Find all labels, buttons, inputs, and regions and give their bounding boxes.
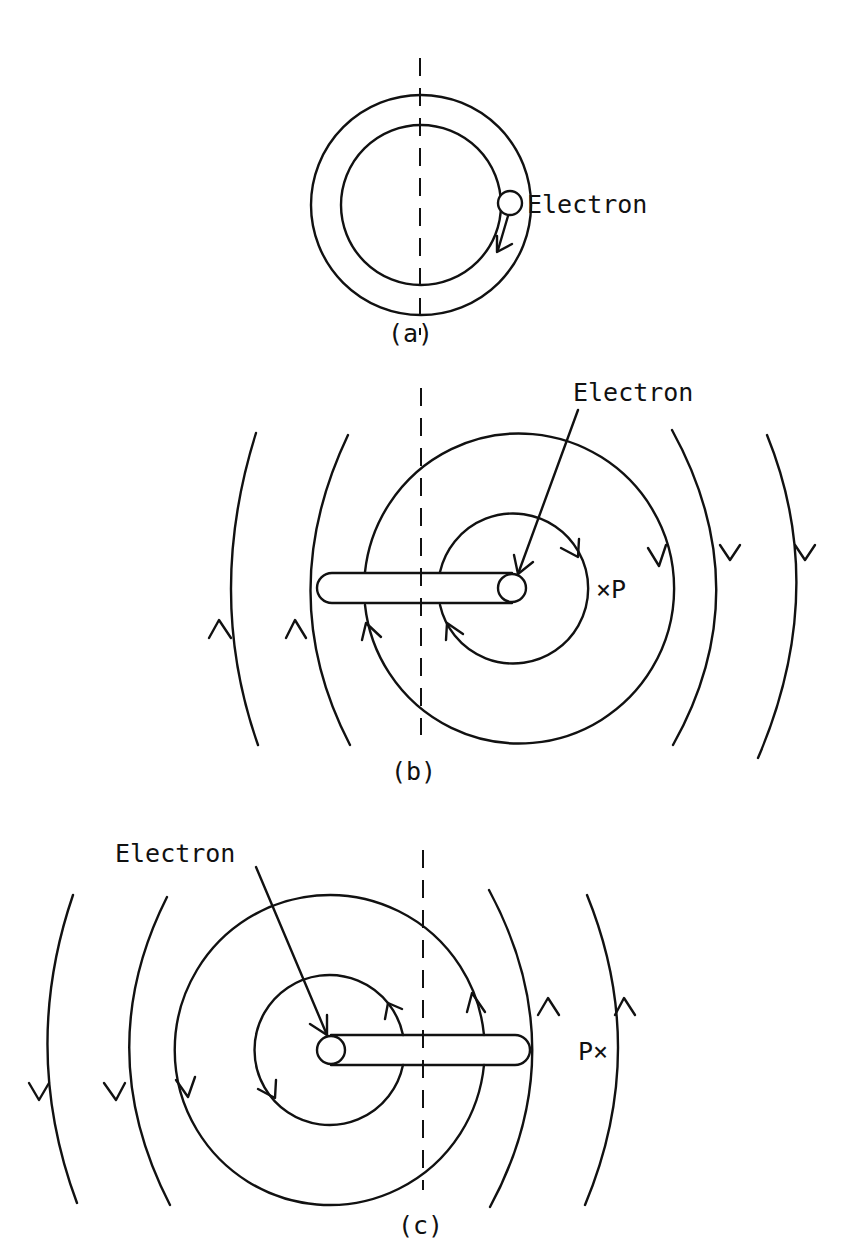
electron-circle-a xyxy=(498,191,522,215)
panel-c: Electron P× (c) xyxy=(29,839,635,1240)
rod-c xyxy=(331,1035,530,1065)
panel-b: Electron ×P (b) xyxy=(209,378,815,786)
arrow-down-icon xyxy=(795,545,815,560)
electron-circle-b xyxy=(498,574,526,602)
arrow-up-icon xyxy=(209,620,231,638)
arrow-down-icon xyxy=(648,545,666,566)
arrow-down-icon xyxy=(720,545,740,560)
panel-caption-c: (c) xyxy=(398,1211,443,1240)
arrow-pointer-icon xyxy=(310,1015,327,1035)
panel-caption-a: (a) xyxy=(388,319,433,348)
electron-label-b: Electron xyxy=(573,378,693,407)
arrow-up-icon xyxy=(615,998,635,1015)
arrow-down-icon xyxy=(104,1083,125,1100)
point-p-label-c: P× xyxy=(578,1037,608,1066)
field-line-b-right-1 xyxy=(672,430,716,745)
rod-b xyxy=(317,573,512,603)
field-line-c-left-1 xyxy=(47,895,77,1203)
field-line-b-right-2 xyxy=(758,435,796,758)
field-line-c-left-2 xyxy=(129,897,170,1205)
field-line-b-left-1 xyxy=(231,433,258,745)
electron-circle-c xyxy=(317,1036,345,1064)
panel-caption-b: (b) xyxy=(391,757,436,786)
electron-field-diagram: Electron (a) Electron ×P (b) xyxy=(0,0,848,1244)
arrow-up-icon xyxy=(538,998,559,1015)
electron-label-a: Electron xyxy=(527,190,647,219)
arrow-down-icon xyxy=(29,1083,49,1100)
electron-label-c: Electron xyxy=(115,839,235,868)
panel-a: Electron (a) xyxy=(311,58,647,348)
point-p-label-b: ×P xyxy=(596,575,626,604)
arrow-up-icon xyxy=(286,620,306,638)
